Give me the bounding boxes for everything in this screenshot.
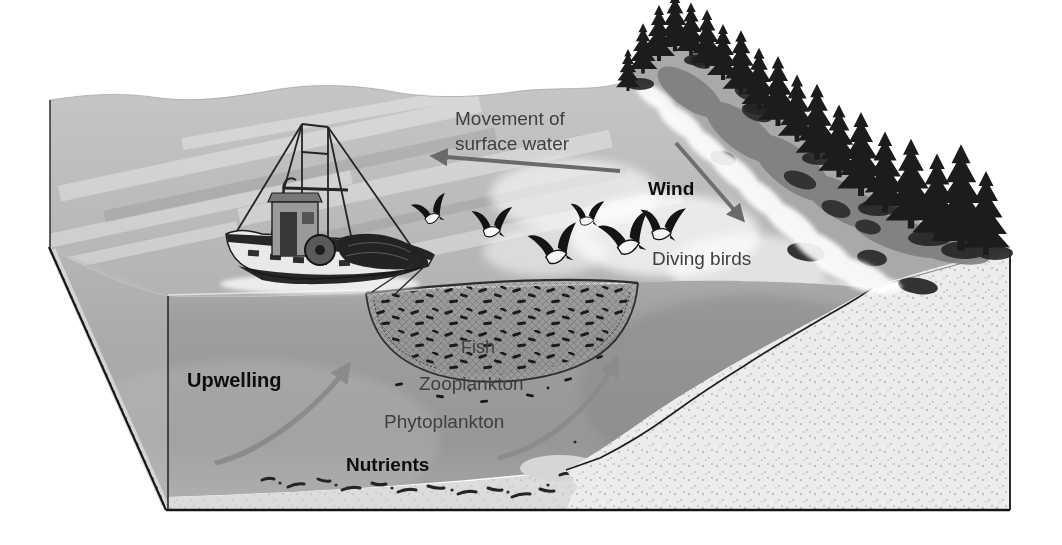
- label-fish: Fish: [461, 335, 495, 360]
- label-surface-movement: Movement of surface water: [455, 106, 593, 156]
- upwelling-figure: Movement of surface water Wind Diving bi…: [0, 0, 1062, 545]
- upwelling-illustration: [0, 0, 1062, 545]
- label-wind: Wind: [648, 176, 694, 201]
- label-nutrients: Nutrients: [346, 452, 429, 477]
- label-diving-birds: Diving birds: [652, 246, 751, 271]
- label-phytoplankton: Phytoplankton: [384, 409, 504, 434]
- label-zooplankton: Zooplankton: [419, 371, 524, 396]
- label-upwelling: Upwelling: [187, 368, 281, 393]
